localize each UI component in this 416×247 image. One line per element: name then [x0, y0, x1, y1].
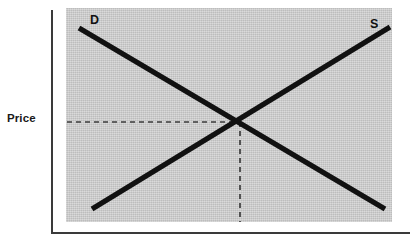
curves-layer [0, 0, 416, 247]
demand-curve-label: D [90, 14, 99, 27]
supply-curve [92, 27, 390, 209]
supply-curve-label: S [370, 18, 378, 31]
supply-demand-diagram: Price D S [0, 0, 416, 247]
